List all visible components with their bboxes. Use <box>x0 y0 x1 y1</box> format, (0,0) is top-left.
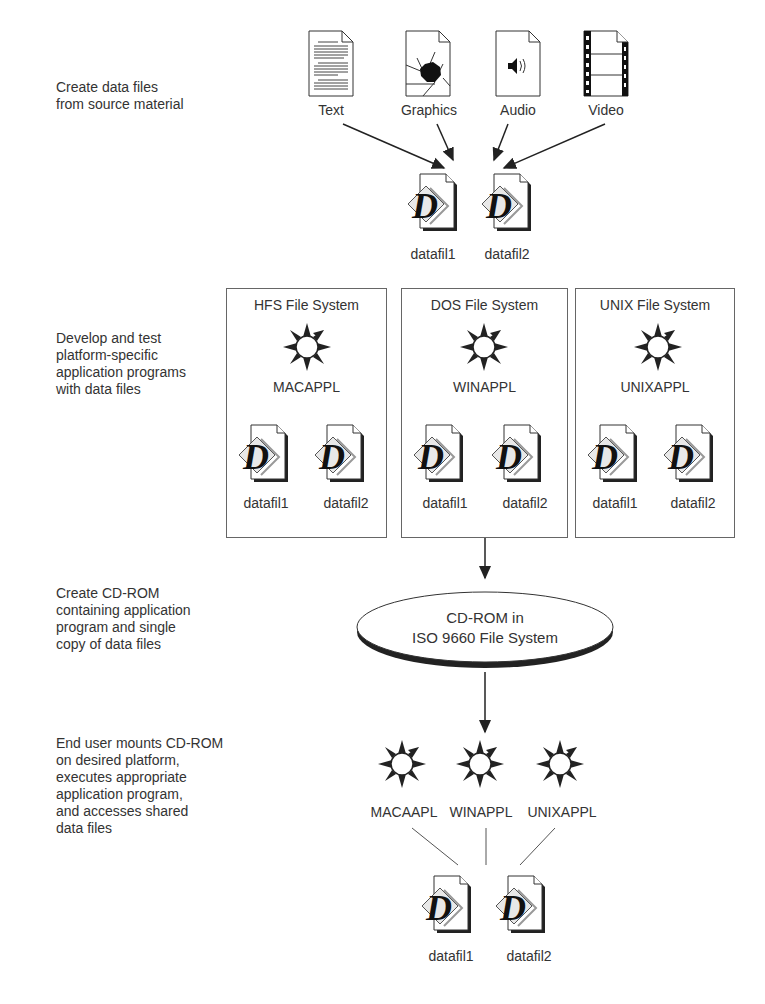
app-label-winappl: WINAPPL <box>402 379 567 395</box>
fs-title-dos: DOS File System <box>402 297 567 313</box>
data-file-icon <box>482 421 546 485</box>
cdrom-label-line1: CD-ROM in <box>350 608 620 628</box>
data-file-label: datafil2 <box>490 495 560 511</box>
app-label-macappl: MACAPPL <box>227 379 386 395</box>
end-app-label-unixappl: UNIXAPPL <box>522 804 602 820</box>
data-file-label: datafil1 <box>410 495 480 511</box>
application-sun-icon <box>283 323 331 371</box>
data-file-label-datafil1: datafil1 <box>398 246 468 262</box>
data-file-icon-datafil2 <box>472 170 536 234</box>
shared-data-file-icon-datafil1 <box>412 872 476 936</box>
unixappl-sun-icon <box>536 740 584 788</box>
data-file-label: datafil2 <box>658 495 728 511</box>
application-sun-icon <box>634 323 682 371</box>
shared-file-label-datafil1: datafil1 <box>416 948 486 964</box>
fs-title-unix: UNIX File System <box>576 297 734 313</box>
data-file-icon <box>305 421 369 485</box>
data-file-icon <box>578 421 642 485</box>
data-file-icon-datafil1 <box>398 170 462 234</box>
cdrom-label-line2: ISO 9660 File System <box>350 628 620 648</box>
shared-data-file-icon-datafil2 <box>486 872 550 936</box>
end-app-label-winappl: WINAPPL <box>446 804 516 820</box>
data-file-icon <box>229 421 293 485</box>
data-file-label-datafil2: datafil2 <box>472 246 542 262</box>
data-file-label: datafil1 <box>231 495 301 511</box>
unix-file-system-box: UNIX File System UNIXAPPL datafil1 dataf… <box>575 288 735 538</box>
app-label-unixappl: UNIXAPPL <box>576 379 734 395</box>
data-file-label: datafil1 <box>580 495 650 511</box>
fs-title-hfs: HFS File System <box>227 297 386 313</box>
winappl-sun-icon <box>456 740 504 788</box>
data-file-icon <box>404 421 468 485</box>
application-sun-icon <box>460 323 508 371</box>
end-app-label-macaapl: MACAAPL <box>366 804 442 820</box>
shared-file-label-datafil2: datafil2 <box>494 948 564 964</box>
dos-file-system-box: DOS File System WINAPPL datafil1 datafil… <box>401 288 568 538</box>
cdrom-label: CD-ROM in ISO 9660 File System <box>350 608 620 648</box>
data-file-icon <box>654 421 718 485</box>
macaapl-sun-icon <box>378 740 426 788</box>
hfs-file-system-box: HFS File System MACAPPL datafil1 datafil… <box>226 288 387 538</box>
data-file-label: datafil2 <box>311 495 381 511</box>
